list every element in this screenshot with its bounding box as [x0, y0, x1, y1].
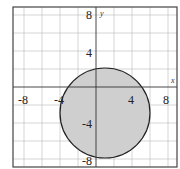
y-tick-label: -4: [82, 117, 92, 131]
x-tick-label: 8: [163, 93, 169, 107]
x-tick-label: -8: [18, 93, 28, 107]
y-axis-label: y: [99, 9, 104, 18]
x-axis-label: x: [170, 76, 175, 85]
x-tick-label: -4: [54, 93, 64, 107]
y-tick-label: -8: [82, 154, 92, 168]
x-tick-label: 4: [128, 93, 134, 107]
y-tick-label: 4: [86, 46, 92, 60]
y-tick-label: 8: [86, 8, 92, 22]
shaded-disk: [60, 68, 150, 158]
coordinate-plane: y x -8 -4 4 8 8 4 -4 -8: [0, 0, 180, 169]
